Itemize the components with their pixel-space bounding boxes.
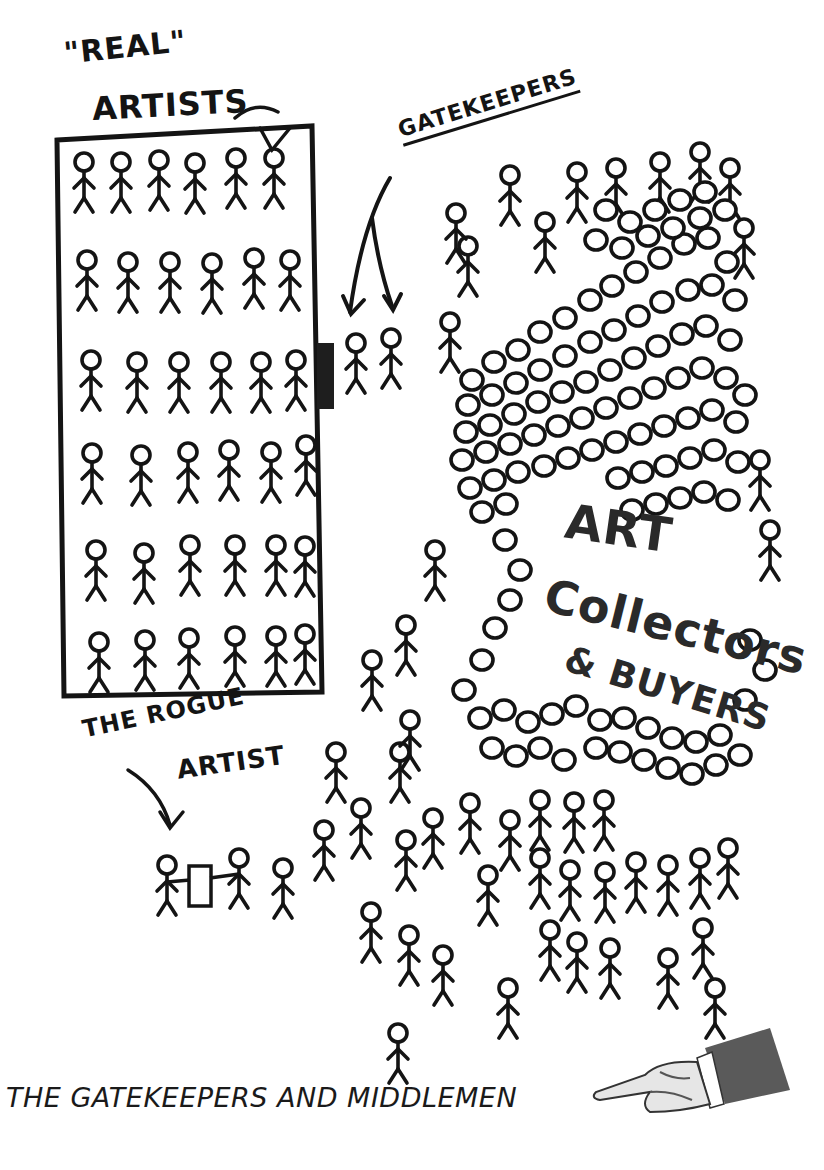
pointing-hand-icon bbox=[594, 1028, 790, 1112]
gatekeeper-figures bbox=[346, 329, 401, 393]
gatekeepers-arrow-icon bbox=[343, 178, 401, 314]
illustration-canvas bbox=[0, 0, 824, 1170]
rogue-artist-group bbox=[157, 849, 293, 918]
real-artists-grid bbox=[74, 149, 316, 692]
door-icon bbox=[317, 343, 334, 409]
real-artists-enclosure bbox=[57, 126, 322, 696]
rogue-artist-arrow-icon bbox=[128, 770, 183, 828]
figure-caption: THE GATEKEEPERS AND MIDDLEMEN bbox=[6, 1082, 517, 1113]
